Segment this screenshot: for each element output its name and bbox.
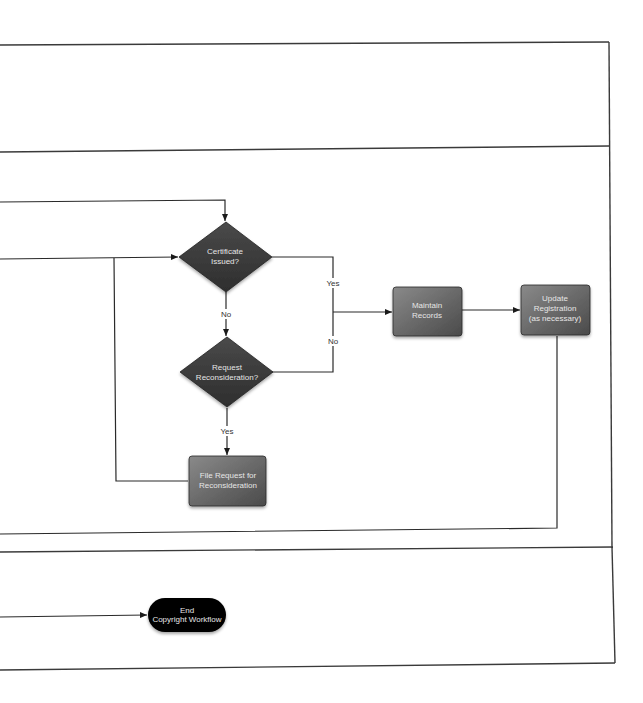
lane-1-top-border — [0, 42, 609, 45]
decision-diamond-shape — [180, 337, 273, 407]
decision-certificate-issued-line-2: Issued? — [211, 257, 240, 266]
decision-request-reconsideration[interactable]: Request Reconsideration? — [180, 337, 273, 407]
edge-certificate-yes — [272, 257, 333, 312]
process-update-registration[interactable]: Update Registration (as necessary) — [521, 285, 590, 335]
decision-request-reconsideration-line-1: Request — [212, 363, 243, 372]
process-maintain-records-line-1: Maintain — [412, 301, 442, 310]
process-update-registration-line-3: (as necessary) — [529, 314, 582, 323]
process-update-registration-line-2: Registration — [534, 304, 577, 313]
process-maintain-records-line-2: Records — [412, 311, 442, 320]
lane-3-bottom-border — [0, 663, 615, 670]
process-file-request-line-1: File Request for — [200, 471, 257, 480]
edge-label-reconsideration-yes: Yes — [220, 427, 233, 436]
edge-file-request-loop-back — [114, 258, 188, 481]
swimlanes — [0, 42, 615, 670]
terminal-end-copyright-workflow[interactable]: End Copyright Workflow — [148, 598, 226, 632]
swimlane-flowchart: Yes No No Yes Certificate Issued? Reques… — [0, 0, 643, 703]
terminal-end-line-2: Copyright Workflow — [152, 615, 221, 624]
terminal-end-line-1: End — [180, 606, 194, 615]
lanes-right-border-upper — [609, 42, 612, 548]
edge-offpage-to-end — [0, 615, 147, 617]
process-file-request-for-reconsideration[interactable]: File Request for Reconsideration — [189, 456, 266, 506]
process-update-registration-line-1: Update — [542, 294, 568, 303]
lanes-right-border-lower — [612, 547, 615, 663]
edge-label-certificate-no: No — [221, 310, 232, 319]
edge-label-certificate-yes: Yes — [326, 279, 339, 288]
edge-offpage-to-certificate-left — [0, 257, 178, 259]
edge-label-reconsideration-no: No — [328, 337, 339, 346]
decision-request-reconsideration-line-2: Reconsideration? — [196, 373, 259, 382]
process-file-request-line-2: Reconsideration — [199, 481, 257, 490]
edge-reconsideration-no — [272, 312, 333, 372]
edge-update-to-offpage — [0, 336, 557, 534]
process-maintain-records[interactable]: Maintain Records — [393, 287, 462, 336]
edge-offpage-to-certificate-top — [0, 200, 225, 221]
connectors — [0, 200, 557, 617]
lane-1-bottom-border — [0, 146, 609, 152]
lane-2-bottom-border — [0, 547, 613, 552]
decision-certificate-issued[interactable]: Certificate Issued? — [179, 222, 272, 292]
decision-certificate-issued-line-1: Certificate — [207, 247, 244, 256]
